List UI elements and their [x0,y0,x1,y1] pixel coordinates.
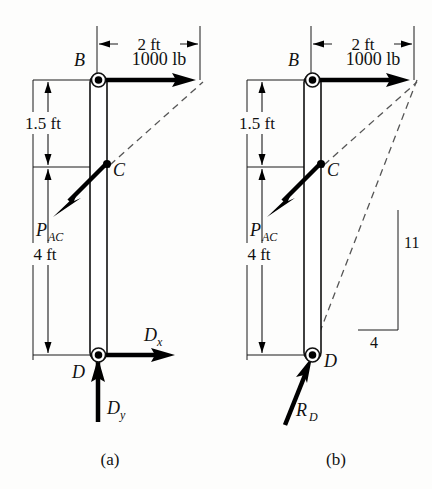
caption-a: (a) [101,450,120,469]
dim-b-15ft-arrow-bottom [259,154,266,165]
force-a-dx-sublabel: x [156,335,163,349]
dim-b-4ft-arrow-top [259,169,266,180]
point-label-b-a: B [74,50,85,70]
dim-b-15ft-arrow-top [259,82,266,93]
dim-a-15ft-label: 1.5 ft [25,114,61,133]
pin-d-b-dot [309,351,317,359]
force-b-rd-sublabel: D [308,410,318,424]
force-a-pac-sublabel: AC [47,230,64,244]
force-a-dy-label: D [106,398,120,418]
figure-container: 2 ft 1.5 ft 4 ft 1000 lb B [0,0,432,489]
dim-b-15ft-label: 1.5 ft [239,114,275,133]
force-b-rd-label: R [295,400,307,420]
slope-label-11: 11 [404,234,419,251]
dim-a-15ft-arrow-top [45,82,52,93]
force-a-1000lb-label: 1000 lb [132,49,187,69]
force-a-pac-label: P [35,220,47,240]
pin-d-a-dot [95,351,103,359]
dim-b-4ft-label: 4 ft [247,245,270,264]
force-b-pac-head [267,194,295,217]
force-b-1000lb-label: 1000 lb [346,49,401,69]
dim-a-4ft-arrow-bottom [45,342,52,353]
force-a-dx-label: D [143,325,157,345]
dim-b-2ft-arrow-left [313,41,324,48]
force-a-pac-head [53,194,81,217]
point-label-d-b: D [323,351,337,371]
dim-a-4ft-label: 4 ft [33,245,56,264]
dim-b-2ft-arrow-right [401,41,412,48]
pin-b-b-dot [309,76,317,84]
member-bd-b [304,74,321,361]
force-b-pac-sublabel: AC [261,230,278,244]
member-bd-a [90,74,107,361]
point-label-c-b: C [327,160,340,180]
point-label-d-a: D [71,362,85,382]
point-label-c-a: C [113,160,126,180]
dim-a-2ft-arrow-right [187,41,198,48]
diagram-a: 2 ft 1.5 ft 4 ft 1000 lb B [12,26,203,469]
force-b-pac-label: P [249,220,261,240]
dim-a-2ft-arrow-left [99,41,110,48]
dashed-b-c-to-corner [324,82,417,165]
diagram-b: 2 ft 1.5 ft 4 ft 11 4 [226,26,419,469]
force-a-dy-sublabel: y [119,408,126,422]
point-label-b-b: B [288,50,299,70]
dim-a-4ft-arrow-top [45,169,52,180]
caption-b: (b) [326,450,346,469]
dashed-b-d-to-corner [311,80,417,355]
dim-b-4ft-arrow-bottom [259,342,266,353]
free-body-diagram-svg: 2 ft 1.5 ft 4 ft 1000 lb B [0,0,432,489]
dim-a-15ft-arrow-bottom [45,154,52,165]
pin-b-a-dot [95,76,103,84]
dashed-a-c-to-corner [110,82,203,165]
slope-label-4: 4 [370,334,378,351]
